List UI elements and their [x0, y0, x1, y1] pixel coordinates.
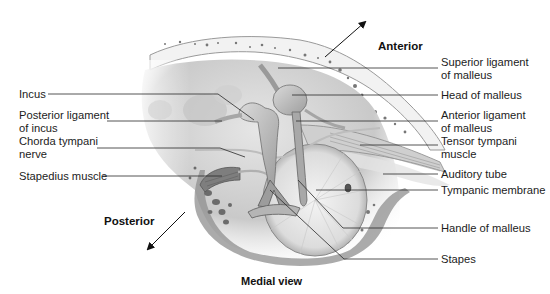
label-incus: Incus	[19, 88, 46, 101]
label-auditory-tube: Auditory tube	[441, 168, 507, 181]
label-posterior-ligament-of-incus: Posterior ligament of incus	[19, 109, 109, 134]
label-handle-of-malleus: Handle of malleus	[441, 222, 531, 235]
label-anterior-ligament-of-malleus: Anterior ligament of malleus	[441, 109, 526, 134]
figure-caption: Medial view	[241, 275, 302, 287]
label-superior-ligament-of-malleus: Superior ligament of malleus	[441, 56, 529, 81]
label-stapedius-muscle: Stapedius muscle	[19, 170, 107, 183]
anterior-arrow	[325, 22, 365, 57]
posterior-label: Posterior	[104, 215, 155, 227]
label-head-of-malleus: Head of malleus	[441, 89, 522, 102]
label-tensor-tympani-muscle: Tensor tympani muscle	[441, 135, 517, 160]
middle-ear-ossicles-diagram: Anterior Posterior Incus Posterior ligam…	[0, 0, 550, 294]
label-tympanic-membrane: Tympanic membrane	[441, 184, 545, 197]
anterior-label: Anterior	[378, 40, 423, 52]
label-stapes: Stapes	[441, 253, 476, 266]
label-chorda-tympani-nerve: Chorda tympani nerve	[19, 135, 98, 160]
